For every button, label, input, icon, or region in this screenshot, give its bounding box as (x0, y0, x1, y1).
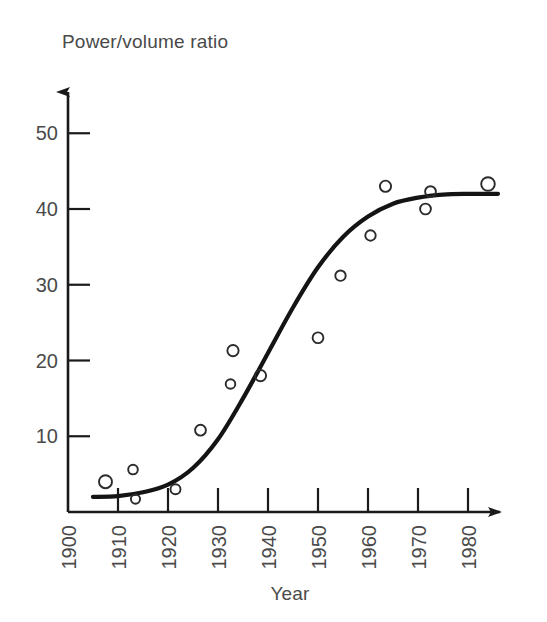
data-point (420, 204, 431, 215)
data-point (171, 484, 181, 494)
x-axis-title: Year (270, 583, 310, 604)
data-point (128, 465, 138, 475)
x-tick-label: 1970 (408, 525, 430, 570)
y-tick-label: 50 (36, 122, 58, 144)
y-tick-label: 10 (36, 425, 58, 447)
chart-canvas: Power/volume ratio Year 1020304050 19001… (0, 0, 547, 622)
data-point (380, 181, 391, 192)
y-tick-label: 30 (36, 274, 58, 296)
x-tick-label: 1950 (308, 525, 330, 570)
y-axis-ticks: 1020304050 (36, 122, 90, 447)
x-tick-label: 1940 (258, 525, 280, 570)
trend-curve (93, 194, 498, 497)
x-axis-ticks: 190019101920193019401950196019701980 (58, 488, 480, 570)
data-point (335, 270, 345, 280)
y-tick-label: 40 (36, 198, 58, 220)
data-point (313, 332, 324, 343)
chart-figure: Power/volume ratio Year 1020304050 19001… (0, 0, 547, 622)
data-point-group (99, 177, 495, 504)
data-point (195, 425, 206, 436)
x-tick-label: 1930 (208, 525, 230, 570)
x-tick-label: 1960 (358, 525, 380, 570)
data-point (227, 345, 238, 356)
data-point (365, 230, 375, 240)
data-point (481, 177, 495, 191)
x-tick-label: 1920 (158, 525, 180, 570)
y-tick-label: 20 (36, 350, 58, 372)
y-axis-title: Power/volume ratio (62, 31, 228, 52)
x-tick-label: 1900 (58, 525, 80, 570)
data-point (99, 475, 112, 488)
data-point (226, 379, 236, 389)
x-tick-label: 1910 (108, 525, 130, 570)
x-tick-label: 1980 (458, 525, 480, 570)
